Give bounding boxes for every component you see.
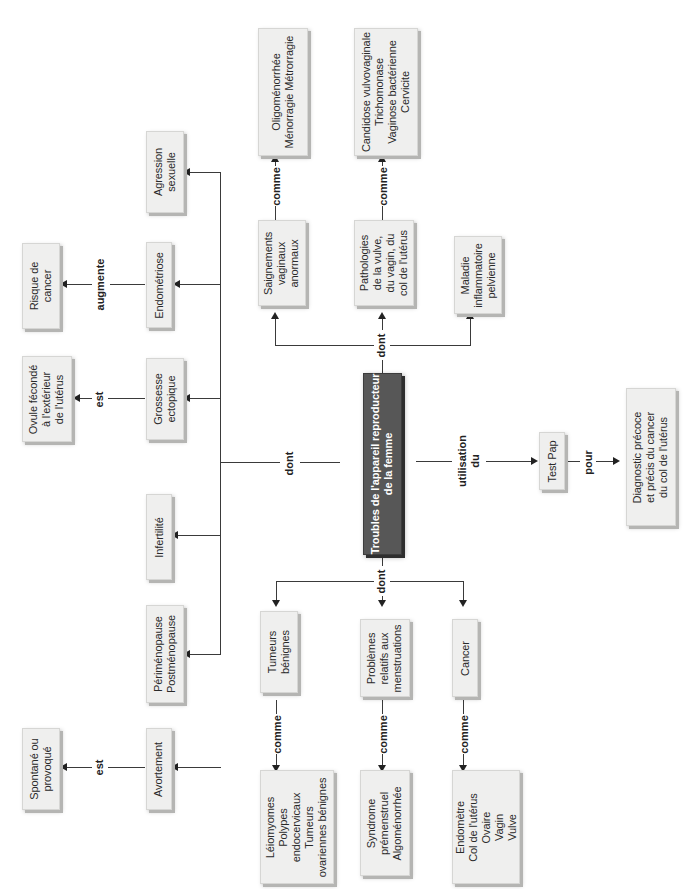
- node-spontane-provoque[interactable]: Spontané ou provoqué: [22, 728, 60, 810]
- arrow-to-avortement: [171, 763, 178, 771]
- arrow-to-grossesse: [183, 394, 190, 402]
- node-leiomyomes-polypes[interactable]: Léiomyomes Polypes endocervicaux Tumeurs…: [260, 770, 334, 884]
- node-saignements-anormaux[interactable]: Saignements vaginaux anormaux: [258, 220, 306, 306]
- arrow-to-ovule: [73, 394, 80, 402]
- connector-top-bar: [275, 345, 471, 346]
- node-agression-sexuelle[interactable]: Agression sexuelle: [146, 131, 184, 213]
- connector-grossesse-ovule: [78, 398, 145, 399]
- arrow-to-tumeurs: [272, 600, 280, 607]
- arrow-to-menopause: [183, 650, 190, 658]
- node-problemes-menstruations[interactable]: Problèmes relatifs aux menstruations: [360, 619, 410, 697]
- connector-to-endometriose: [178, 284, 221, 285]
- node-ovule-feconde[interactable]: Ovule fécondé à l'extérieur de l'utérus: [22, 356, 72, 442]
- link-label-comme-pathologies: comme: [374, 166, 392, 206]
- arrow-to-risque: [60, 280, 67, 288]
- link-label-est-avortement: est: [92, 756, 108, 778]
- node-avortement[interactable]: Avortement: [146, 728, 172, 810]
- link-label-augmente: augmente: [92, 256, 110, 312]
- link-label-dont-top: dont: [374, 330, 390, 360]
- connector-to-infertilite: [176, 535, 221, 536]
- arrow-to-diagnostic: [613, 457, 620, 465]
- node-infertilite[interactable]: Infertilité: [146, 494, 172, 580]
- arrow-to-saignements: [271, 312, 279, 319]
- arrow-to-test-pap: [531, 457, 538, 465]
- arrow-to-endometriose: [173, 280, 180, 288]
- node-maladie-inflammatoire-pelvienne[interactable]: Maladie inflammatoire pelvienne: [454, 236, 502, 314]
- link-label-pour: pour: [580, 448, 596, 476]
- node-perimenopause-postmenopause[interactable]: Périménopause Postménopause: [146, 605, 184, 703]
- node-grossesse-ectopique[interactable]: Grossesse ectopique: [146, 358, 184, 440]
- link-label-comme-problemes: comme: [374, 714, 392, 754]
- link-label-est-grossesse: est: [92, 388, 108, 410]
- node-syndrome-premenstruel[interactable]: Syndrome prémenstruel Algoménorrhée: [360, 770, 410, 876]
- connector-to-grossesse: [188, 398, 221, 399]
- central-concept-node[interactable]: Troubles de l'appareil reproducteur de l…: [363, 373, 402, 555]
- arrow-to-oligo: [271, 155, 279, 162]
- connector-to-mip: [470, 318, 471, 346]
- node-risque-cancer[interactable]: Risque de cancer: [22, 243, 60, 329]
- arrow-to-infertilite: [171, 531, 178, 539]
- link-label-comme-cancer: comme: [455, 714, 473, 754]
- connector-to-agression: [188, 172, 221, 173]
- node-test-pap[interactable]: Test Pap: [539, 432, 565, 490]
- link-label-utilisation: utilisation du: [452, 432, 486, 490]
- arrow-to-agression: [183, 168, 190, 176]
- connector-to-menopause: [188, 654, 221, 655]
- arrow-to-problemes: [378, 600, 386, 607]
- connector-to-avortement: [176, 767, 221, 768]
- connector-to-tumeurs: [276, 581, 277, 601]
- arrow-to-cancer: [459, 600, 467, 607]
- connector-left-trunk: [220, 172, 221, 655]
- link-label-dont-left: dont: [280, 448, 300, 478]
- link-label-comme-tumeurs: comme: [268, 714, 286, 754]
- connector-to-cancer: [463, 581, 464, 601]
- arrow-to-candidose: [378, 155, 386, 162]
- node-candidose-trichomonase[interactable]: Candidose vulvovaginale Trichomonase Vag…: [354, 28, 418, 156]
- node-cancer-sites[interactable]: Endomètre Col de l'utérus Ovaire Vagin V…: [452, 770, 520, 884]
- node-pathologies-vulve-vagin[interactable]: Pathologies de la vulve, du vagin, du co…: [354, 220, 414, 306]
- node-tumeurs-benignes[interactable]: Tumeurs bénignes: [260, 611, 298, 693]
- link-label-comme-saignements: comme: [267, 166, 285, 206]
- node-cancer[interactable]: Cancer: [452, 619, 478, 697]
- node-diagnostic-precoce[interactable]: Diagnostic précoce et précis du cancer d…: [626, 388, 676, 526]
- node-oligomenorrhee[interactable]: Oligoménorrhée Ménorragie Métrorragie: [258, 28, 308, 156]
- connector-to-saignements: [275, 318, 276, 346]
- connector-bottom-bar: [276, 581, 464, 582]
- arrow-to-pathologies: [378, 312, 386, 319]
- link-label-dont-bottom: dont: [374, 566, 390, 596]
- arrow-to-spontane: [60, 763, 67, 771]
- node-endometriose[interactable]: Endométriose: [146, 242, 172, 328]
